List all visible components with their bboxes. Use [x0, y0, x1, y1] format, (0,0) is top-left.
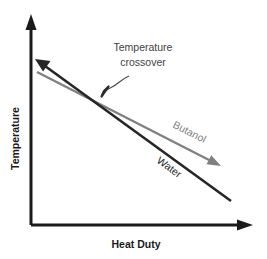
x-axis-label: Heat Duty	[111, 238, 160, 250]
y-axis-label: Temperature	[9, 107, 21, 170]
temperature-crossover-chart: Temperature Heat Duty Temperature crosso…	[0, 0, 267, 259]
crossover-label-line2: crossover	[120, 56, 166, 68]
crossover-label-line1: Temperature	[114, 41, 173, 53]
